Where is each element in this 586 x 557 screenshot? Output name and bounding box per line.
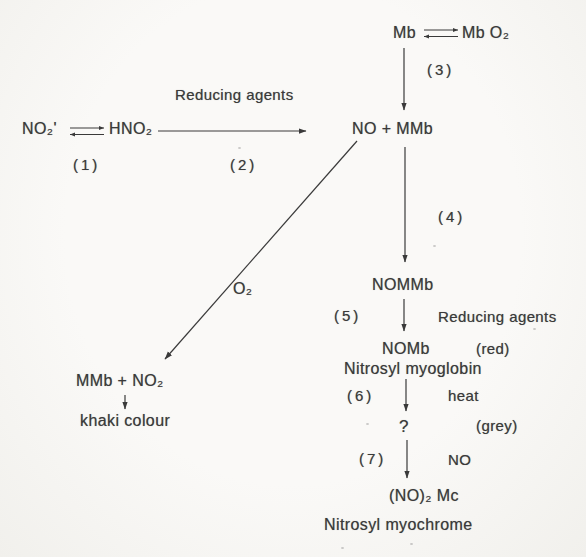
node-nommb: NOMMb xyxy=(372,276,434,294)
scan-speck xyxy=(238,147,241,149)
step-label-5: (5) xyxy=(334,307,361,324)
scan-speck xyxy=(341,547,344,549)
node-myoglobin: Mb xyxy=(393,24,416,42)
node-nitrite: NO₂' xyxy=(22,120,57,138)
scan-speck xyxy=(433,245,436,247)
node-unknown-intermediate: ? xyxy=(399,417,409,437)
node-nitrosyl-myoglobin-name: Nitrosyl myoglobin xyxy=(344,360,482,378)
edge-label-heat: heat xyxy=(448,387,479,404)
edge-label-reducing-agents-mid: Reducing agents xyxy=(438,308,557,325)
node-khaki-colour: khaki colour xyxy=(80,412,170,430)
scan-speck xyxy=(533,328,536,330)
node-oxymyoglobin: Mb O₂ xyxy=(462,24,509,42)
edge-label-no: NO xyxy=(448,451,471,468)
step-label-7: (7) xyxy=(359,450,386,467)
node-no-metmyoglobin: NO + MMb xyxy=(352,120,433,138)
node-nitrosyl-myochrome-name: Nitrosyl myochrome xyxy=(324,516,473,534)
scanned-reaction-diagram: NO₂' HNO₂ (1) Reducing agents (2) Mb Mb … xyxy=(0,0,586,557)
step-label-4: (4) xyxy=(438,208,465,225)
node-nitrous-acid: HNO₂ xyxy=(109,120,152,138)
reaction-arrows xyxy=(0,0,586,557)
step-label-2: (2) xyxy=(230,156,257,173)
arrow-o2-branch xyxy=(165,141,357,359)
edge-label-o2: O₂ xyxy=(233,280,252,298)
node-mmb-no2: MMb + NO₂ xyxy=(76,372,164,390)
edge-label-reducing-agents-top: Reducing agents xyxy=(175,86,294,103)
node-nomb: NOMb xyxy=(382,340,430,358)
scan-speck xyxy=(366,423,369,425)
node-nitrosyl-myochrome: (NO)₂ Mc xyxy=(389,487,459,505)
note-grey-colour: (grey) xyxy=(476,417,518,434)
step-label-6: (6) xyxy=(347,387,374,404)
step-label-1: (1) xyxy=(73,156,100,173)
note-red-colour: (red) xyxy=(476,340,510,357)
step-label-3: (3) xyxy=(427,61,454,78)
scan-speck xyxy=(410,543,413,545)
